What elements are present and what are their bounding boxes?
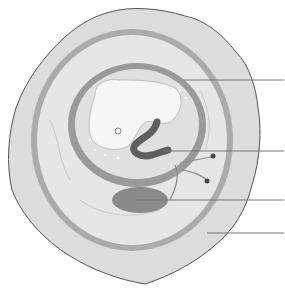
vessel-end bbox=[211, 154, 216, 159]
embryo-diagram bbox=[0, 0, 285, 291]
vessel-end bbox=[205, 179, 210, 184]
embryo-eye bbox=[115, 128, 121, 134]
